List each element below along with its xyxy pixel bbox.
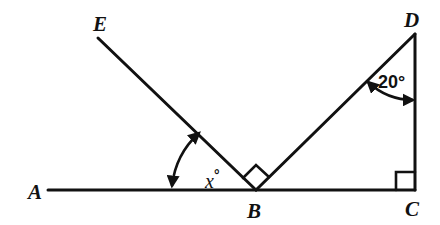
point-label-d: D: [403, 8, 419, 32]
point-label-b: B: [246, 199, 261, 223]
point-label-c: C: [405, 197, 420, 221]
right-angle-marker-b: [243, 165, 269, 178]
segment-bd: [256, 34, 415, 190]
geometry-diagram: A B C D E x° 20°: [0, 0, 440, 225]
angle-label-x-degree: °: [214, 167, 220, 183]
angle-label-20: 20°: [378, 72, 405, 92]
angle-label-x: x°: [204, 167, 220, 192]
angle-arc-x: [172, 133, 199, 186]
point-label-e: E: [92, 12, 107, 36]
right-angle-marker-c: [396, 172, 415, 190]
angle-label-x-var: x: [204, 170, 214, 192]
point-label-a: A: [26, 180, 42, 204]
